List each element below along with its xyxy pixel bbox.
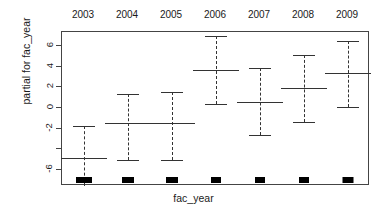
rug-mark-2005	[166, 177, 178, 183]
partial-effect-line	[325, 73, 371, 74]
rug-mark-2003	[76, 177, 92, 183]
lower-whisker-cap	[161, 160, 183, 161]
upper-whisker-cap	[73, 126, 95, 127]
confidence-interval-line	[260, 68, 261, 135]
x-axis-title: fac_year	[0, 192, 387, 204]
y-axis-tick-label: -6	[0, 163, 52, 174]
lower-whisker-cap	[337, 107, 359, 108]
upper-whisker-cap	[117, 94, 139, 95]
x-category-label-2007: 2007	[248, 9, 270, 20]
x-category-label-2003: 2003	[72, 9, 94, 20]
x-category-label-2005: 2005	[160, 9, 182, 20]
upper-whisker-cap	[205, 36, 227, 37]
x-category-label-2004: 2004	[116, 9, 138, 20]
x-category-label-2008: 2008	[292, 9, 314, 20]
partial-effect-line	[149, 123, 195, 124]
lower-whisker-cap	[293, 122, 315, 123]
partial-effect-line	[237, 102, 283, 103]
lower-whisker-cap	[117, 160, 139, 161]
upper-whisker-cap	[249, 68, 271, 69]
partial-effect-line	[61, 158, 107, 159]
y-axis-tick-label: 6	[0, 39, 52, 50]
partial-effect-plot: partial for fac_year 6420-2-6 2003200420…	[0, 0, 387, 215]
x-category-label-2009: 2009	[336, 9, 358, 20]
lower-whisker-cap	[205, 104, 227, 105]
rug-mark-2008	[299, 177, 309, 183]
upper-whisker-cap	[293, 55, 315, 56]
x-category-label-2006: 2006	[204, 9, 226, 20]
upper-whisker-cap	[161, 92, 183, 93]
rug-mark-2007	[255, 177, 265, 183]
lower-whisker-cap	[249, 135, 271, 136]
y-axis-tick-label: 0	[0, 101, 52, 112]
partial-effect-line	[105, 123, 151, 124]
partial-effect-line	[281, 88, 327, 89]
confidence-interval-line	[128, 94, 129, 161]
y-axis-tick-label: 2	[0, 80, 52, 91]
rug-mark-2009	[343, 177, 354, 183]
upper-whisker-cap	[337, 41, 359, 42]
confidence-interval-line	[172, 92, 173, 161]
y-axis-tick-label: 4	[0, 60, 52, 71]
partial-effect-line	[193, 70, 239, 71]
plot-area	[61, 31, 369, 185]
y-axis-tick-label: -2	[0, 122, 52, 133]
rug-mark-2006	[211, 177, 221, 183]
rug-mark-2004	[122, 177, 134, 183]
confidence-interval-line	[348, 41, 349, 107]
